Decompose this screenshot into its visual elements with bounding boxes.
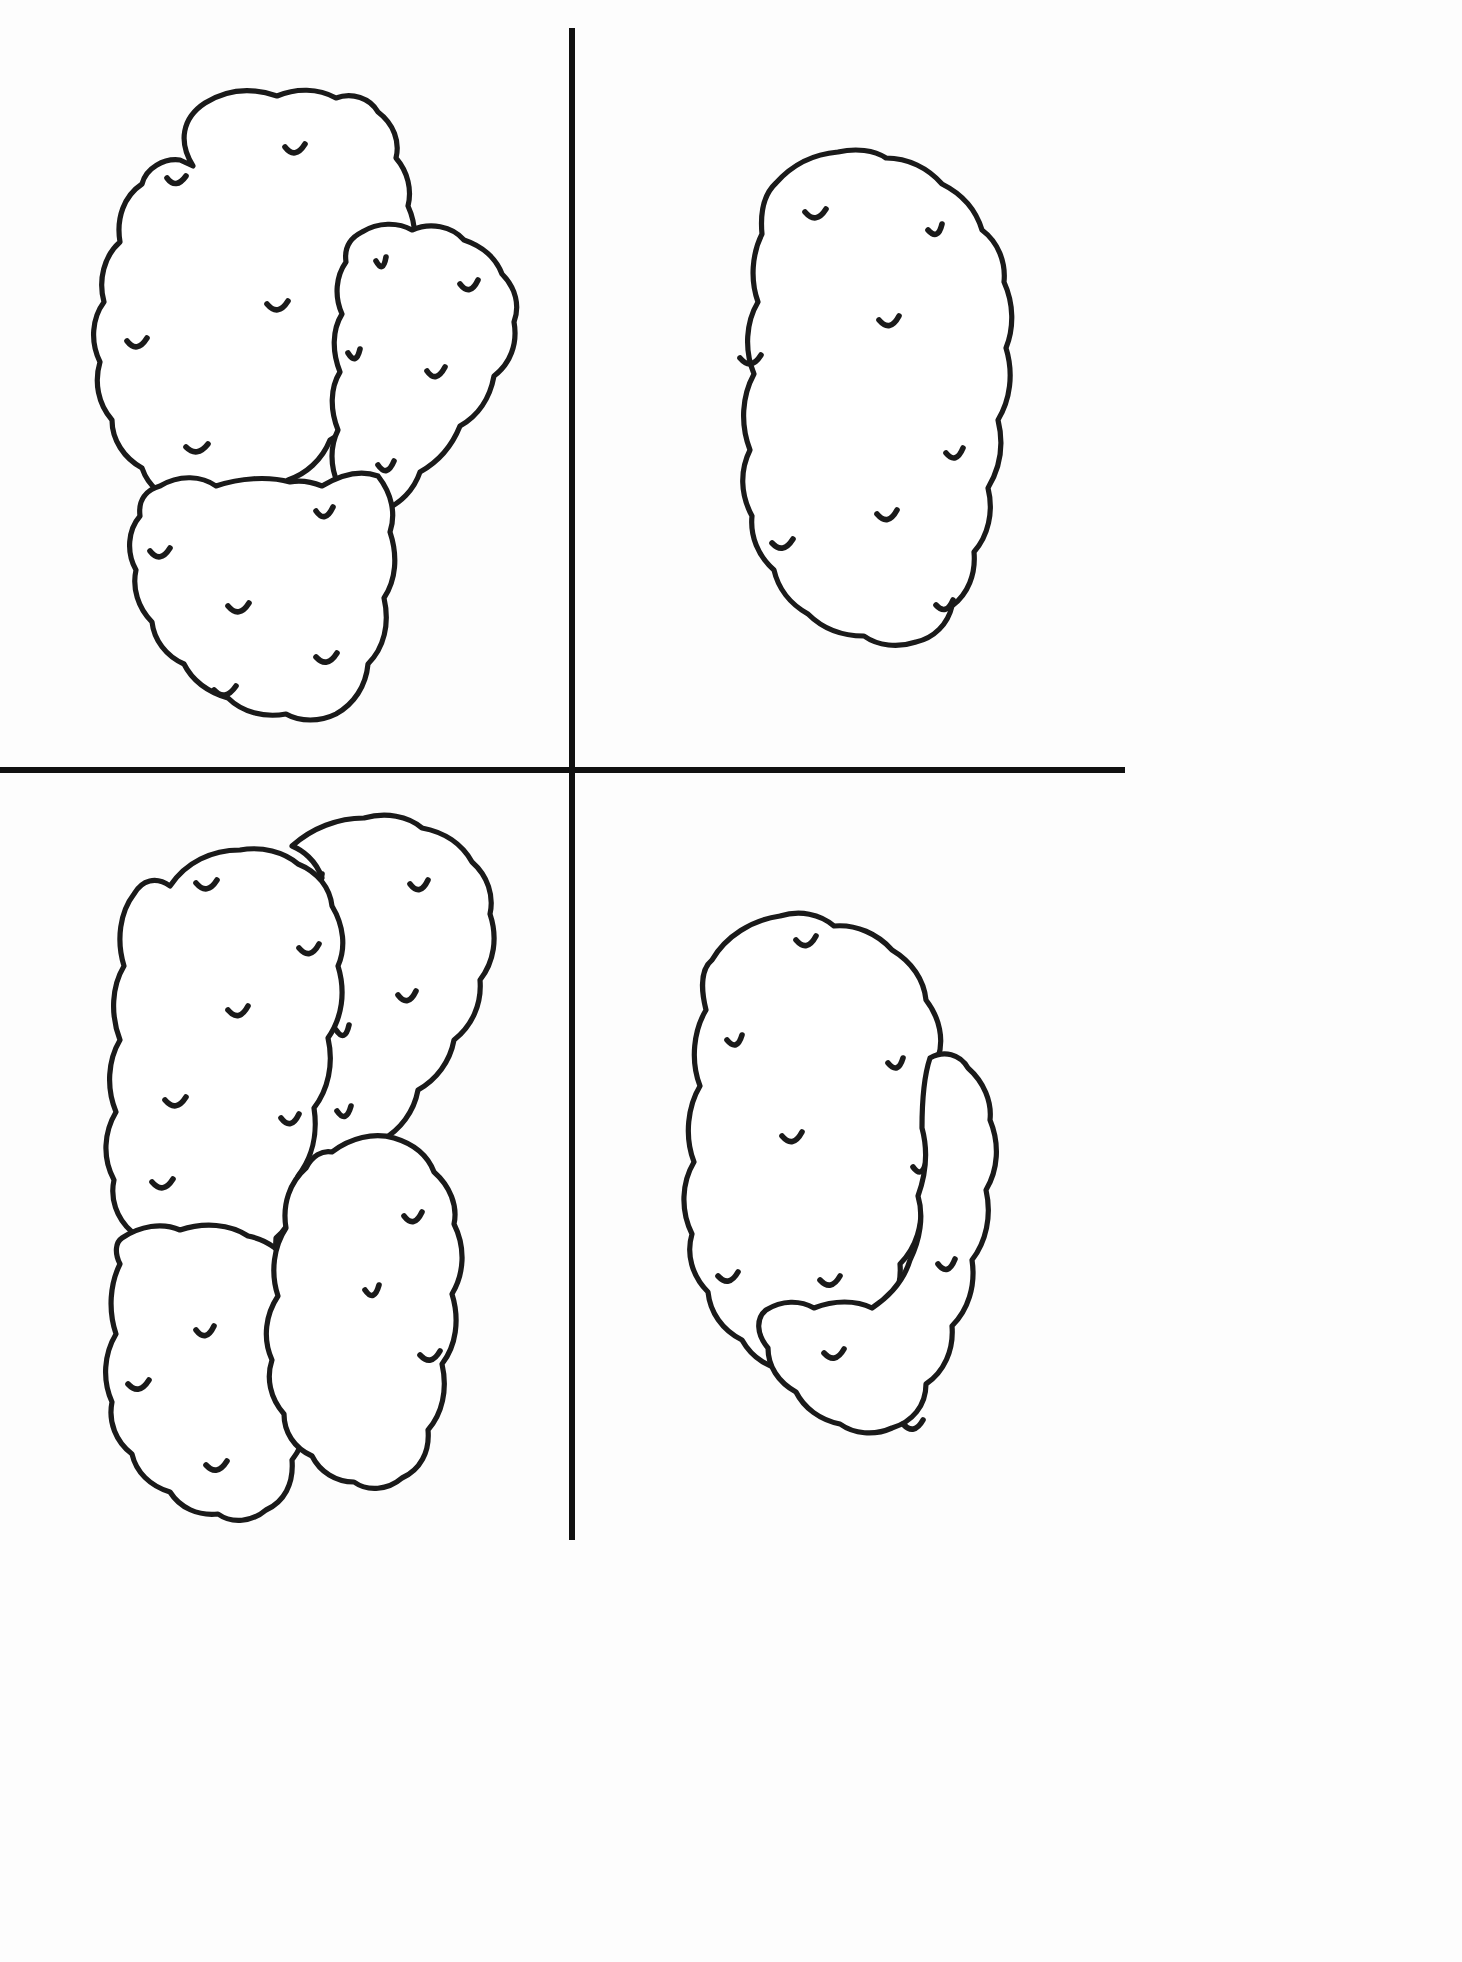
illustration-page [0,0,1462,1962]
quadrant-bottom-right[interactable] [578,776,1462,1962]
quadrant-bottom-left[interactable] [0,776,572,1962]
quadrant-top-right[interactable] [578,0,1462,770]
quadrant-top-left[interactable] [0,0,572,770]
